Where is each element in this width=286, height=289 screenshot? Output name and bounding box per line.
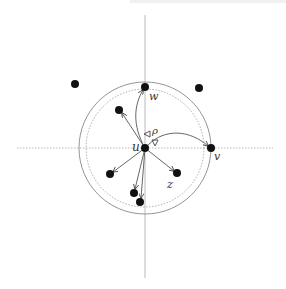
node-n5 [71, 80, 79, 88]
node-z [173, 169, 181, 177]
edge-u-z [145, 148, 174, 171]
label-rho: ρ [151, 125, 158, 136]
node-n6 [195, 84, 203, 92]
node-n1 [115, 106, 123, 114]
label-w: w [149, 90, 159, 103]
label-u: u [132, 140, 140, 154]
node-w [141, 83, 149, 91]
label-v: v [214, 150, 221, 163]
node-n4 [136, 198, 144, 206]
node-n3 [130, 189, 138, 197]
label-z: z [166, 178, 173, 191]
down-triangle-marker-icon [152, 140, 158, 146]
node-n2 [106, 170, 114, 178]
network-diagram: u w v z ρ [0, 0, 286, 289]
node-u [141, 144, 149, 152]
